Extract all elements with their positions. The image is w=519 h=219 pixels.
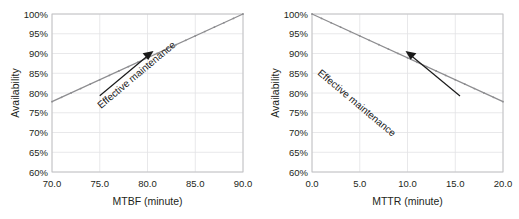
ytick-label: 75%	[29, 107, 49, 118]
ytick-label: 100%	[24, 9, 49, 20]
xtick-label: 90.0	[234, 178, 253, 189]
ytick-label: 95%	[29, 28, 49, 39]
xtick-label: 15.0	[446, 178, 465, 189]
x-axis-tick-labels: 70.0 75.0 80.0 85.0 90.0	[43, 178, 253, 189]
xtick-label: 70.0	[43, 178, 62, 189]
xtick-label: 10.0	[398, 178, 417, 189]
two-panel-availability-figure: Effective maintenance 100% 95% 90% 85% 8…	[0, 0, 519, 219]
ytick-label: 70%	[29, 127, 49, 138]
mtbf-chart-svg: Effective maintenance 100% 95% 90% 85% 8…	[0, 0, 259, 219]
ytick-label: 85%	[29, 68, 49, 79]
xtick-label: 0.0	[305, 178, 318, 189]
ytick-label: 60%	[29, 167, 49, 178]
ytick-label: 100%	[284, 9, 309, 20]
chart-panel-mtbf: Effective maintenance 100% 95% 90% 85% 8…	[0, 0, 259, 219]
ytick-label: 80%	[289, 88, 309, 99]
x-axis-title: MTTR (minute)	[372, 195, 443, 207]
ytick-label: 85%	[289, 68, 309, 79]
ytick-label: 80%	[29, 88, 49, 99]
x-axis-title: MTBF (minute)	[112, 195, 182, 207]
y-axis-tick-labels: 100% 95% 90% 85% 80% 75% 70% 65% 60%	[284, 9, 309, 178]
y-axis-title: Availability	[269, 68, 281, 118]
ytick-label: 65%	[289, 147, 309, 158]
mttr-chart-svg: Effective maintenance 100% 95% 90% 85% 8…	[259, 0, 519, 219]
y-axis-tick-labels: 100% 95% 90% 85% 80% 75% 70% 65% 60%	[24, 9, 49, 178]
ytick-label: 70%	[289, 127, 309, 138]
xtick-label: 75.0	[91, 178, 110, 189]
xtick-label: 5.0	[353, 178, 366, 189]
ytick-label: 95%	[289, 28, 309, 39]
ytick-label: 65%	[29, 147, 49, 158]
xtick-label: 20.0	[494, 178, 513, 189]
chart-panel-mttr: Effective maintenance 100% 95% 90% 85% 8…	[259, 0, 519, 219]
ytick-label: 90%	[289, 48, 309, 59]
ytick-label: 60%	[289, 167, 309, 178]
y-axis-title: Availability	[9, 68, 21, 118]
xtick-label: 80.0	[138, 178, 157, 189]
ytick-label: 75%	[289, 107, 309, 118]
xtick-label: 85.0	[186, 178, 205, 189]
ytick-label: 90%	[29, 48, 49, 59]
x-axis-tick-labels: 0.0 5.0 10.0 15.0 20.0	[305, 178, 512, 189]
